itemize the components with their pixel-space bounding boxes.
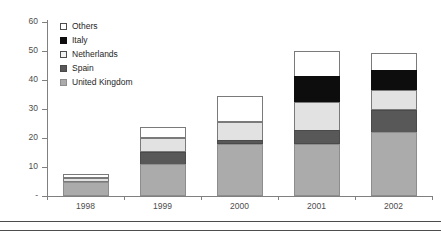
x-tick xyxy=(432,196,433,200)
legend-label: United Kingdom xyxy=(72,77,132,87)
stacked-bar-chart: 605040302010- 19981999200020012002 Other… xyxy=(0,0,441,238)
x-tick xyxy=(47,196,48,200)
bar-segment-netherlands xyxy=(294,102,340,131)
divider-bottom xyxy=(0,230,441,231)
legend-item: Spain xyxy=(60,61,132,75)
x-axis-label: 2000 xyxy=(205,201,275,211)
x-tick xyxy=(278,196,279,200)
bar-segment-spain xyxy=(140,152,186,165)
legend-item: Netherlands xyxy=(60,47,132,61)
y-tick-label: - xyxy=(4,191,38,200)
legend-item: Italy xyxy=(60,33,132,47)
legend-swatch-uk-icon xyxy=(60,79,67,86)
y-tick-label: 10 xyxy=(4,162,38,171)
y-tick xyxy=(42,167,47,168)
bar-segment-others xyxy=(140,127,186,139)
bar-segment-uk xyxy=(63,182,109,197)
bar-segment-others xyxy=(294,51,340,77)
bar-segment-uk xyxy=(140,164,186,196)
y-tick-label: 60 xyxy=(4,17,38,26)
x-axis-label: 2002 xyxy=(359,201,429,211)
y-tick xyxy=(42,80,47,81)
legend-swatch-italy-icon xyxy=(60,37,67,44)
legend-label: Italy xyxy=(72,35,88,45)
y-tick xyxy=(42,22,47,23)
bar-segment-netherlands xyxy=(140,138,186,153)
x-tick xyxy=(124,196,125,200)
bar-segment-uk xyxy=(294,144,340,196)
bar-segment-italy xyxy=(371,70,417,90)
x-axis-label: 1998 xyxy=(51,201,121,211)
bar-column xyxy=(140,0,186,196)
y-tick xyxy=(42,109,47,110)
bar-segment-italy xyxy=(294,76,340,102)
bar-segment-uk xyxy=(217,144,263,196)
legend-item: United Kingdom xyxy=(60,75,132,89)
y-tick xyxy=(42,138,47,139)
bar-column xyxy=(371,0,417,196)
x-tick xyxy=(355,196,356,200)
bar-segment-netherlands xyxy=(371,90,417,110)
divider-top xyxy=(0,221,441,222)
bar-segment-spain xyxy=(294,130,340,145)
y-axis-line xyxy=(47,20,48,197)
y-tick-label: 20 xyxy=(4,133,38,142)
bar-segment-netherlands xyxy=(217,122,263,141)
bar-segment-others xyxy=(217,96,263,122)
x-axis-label: 2001 xyxy=(282,201,352,211)
bar-column xyxy=(294,0,340,196)
legend-swatch-others-icon xyxy=(60,23,67,30)
y-tick xyxy=(42,51,47,52)
legend-label: Others xyxy=(72,21,98,31)
chart-legend: OthersItalyNetherlandsSpainUnited Kingdo… xyxy=(60,19,132,89)
y-tick-label: 30 xyxy=(4,104,38,113)
x-tick xyxy=(201,196,202,200)
legend-swatch-netherlands-icon xyxy=(60,51,67,58)
legend-label: Netherlands xyxy=(72,49,118,59)
bar-column xyxy=(217,0,263,196)
y-tick-label: 40 xyxy=(4,75,38,84)
legend-item: Others xyxy=(60,19,132,33)
bar-segment-spain xyxy=(371,110,417,133)
bar-segment-uk xyxy=(371,132,417,196)
y-tick-label: 50 xyxy=(4,46,38,55)
x-axis-label: 1999 xyxy=(128,201,198,211)
x-axis-line xyxy=(47,196,432,197)
bar-segment-others xyxy=(371,53,417,70)
legend-label: Spain xyxy=(72,63,94,73)
legend-swatch-spain-icon xyxy=(60,65,67,72)
